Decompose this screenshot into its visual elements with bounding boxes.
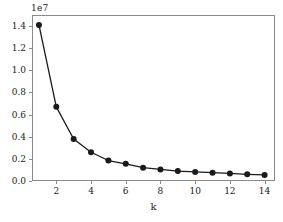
x-tick-label: 10 bbox=[189, 186, 200, 196]
data-point bbox=[227, 170, 233, 176]
y-tick-mark bbox=[29, 48, 32, 49]
x-tick-mark bbox=[230, 181, 231, 184]
data-point bbox=[53, 104, 59, 110]
data-point bbox=[36, 22, 42, 28]
y-tick-mark bbox=[29, 137, 32, 138]
y-tick-mark bbox=[29, 92, 32, 93]
x-tick-label: 4 bbox=[88, 186, 94, 196]
data-point bbox=[262, 172, 268, 178]
data-point bbox=[71, 136, 77, 142]
y-tick-label: 1.0 bbox=[0, 65, 26, 75]
y-tick-label: 0.4 bbox=[0, 132, 26, 142]
y-axis-offset-label: 1e7 bbox=[31, 3, 48, 13]
y-tick-mark bbox=[29, 181, 32, 182]
chart-figure: 1e7 0.00.20.40.60.81.01.21.4 2468101214 … bbox=[0, 0, 283, 222]
x-tick-mark bbox=[126, 181, 127, 184]
x-tick-label: 14 bbox=[259, 186, 270, 196]
x-tick-label: 6 bbox=[123, 186, 129, 196]
data-point bbox=[210, 170, 216, 176]
data-point bbox=[157, 166, 163, 172]
y-tick-mark bbox=[29, 159, 32, 160]
x-tick-mark bbox=[91, 181, 92, 184]
x-tick-label: 12 bbox=[224, 186, 235, 196]
y-tick-mark bbox=[29, 70, 32, 71]
data-point bbox=[88, 149, 94, 155]
data-point bbox=[244, 171, 250, 177]
data-point bbox=[175, 168, 181, 174]
data-point bbox=[123, 161, 129, 167]
y-tick-label: 0.0 bbox=[0, 176, 26, 186]
data-point bbox=[192, 169, 198, 175]
y-tick-label: 1.4 bbox=[0, 21, 26, 31]
x-tick-label: 2 bbox=[53, 186, 59, 196]
x-tick-mark bbox=[265, 181, 266, 184]
y-tick-label: 1.2 bbox=[0, 43, 26, 53]
series-markers-inertia bbox=[36, 22, 268, 178]
x-axis-label: k bbox=[150, 201, 156, 212]
data-point bbox=[105, 158, 111, 164]
y-tick-label: 0.6 bbox=[0, 110, 26, 120]
y-tick-label: 0.2 bbox=[0, 154, 26, 164]
x-tick-mark bbox=[160, 181, 161, 184]
data-point bbox=[140, 165, 146, 171]
series-line-inertia bbox=[39, 25, 265, 175]
x-tick-mark bbox=[56, 181, 57, 184]
x-tick-mark bbox=[195, 181, 196, 184]
y-tick-mark bbox=[29, 115, 32, 116]
y-tick-label: 0.8 bbox=[0, 87, 26, 97]
x-tick-label: 8 bbox=[158, 186, 164, 196]
y-tick-mark bbox=[29, 26, 32, 27]
plot-canvas bbox=[32, 15, 275, 181]
